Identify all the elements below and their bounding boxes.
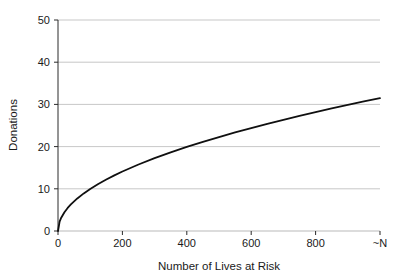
- x-tick-label-0: 0: [55, 237, 61, 249]
- y-tick-label-20: 20: [38, 141, 50, 153]
- x-tick-label-200: 200: [113, 237, 131, 249]
- chart-background: [0, 0, 395, 277]
- x-tick-label-400: 400: [178, 237, 196, 249]
- y-tick-label-50: 50: [38, 14, 50, 26]
- x-tick-label-600: 600: [242, 237, 260, 249]
- y-axis-title: Donations: [7, 99, 19, 151]
- y-tick-label-30: 30: [38, 98, 50, 110]
- y-tick-label-10: 10: [38, 183, 50, 195]
- chart-container: 01020304050 0200400600800~N Number of Li…: [0, 0, 395, 277]
- y-tick-label-0: 0: [44, 225, 50, 237]
- x-tick-label-~N: ~N: [373, 237, 387, 249]
- x-tick-label-800: 800: [306, 237, 324, 249]
- y-tick-label-40: 40: [38, 56, 50, 68]
- donations-vs-lives-at-risk-chart: 01020304050 0200400600800~N Number of Li…: [0, 0, 395, 277]
- x-axis-title: Number of Lives at Risk: [158, 260, 280, 272]
